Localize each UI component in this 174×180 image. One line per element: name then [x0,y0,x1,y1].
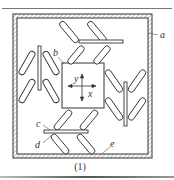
label-a: a [160,29,165,40]
flexure-diagram: y x [0,0,174,180]
figure-caption: (1) [74,161,86,173]
x-axis-label: x [87,88,93,99]
bottom-rule [0,176,174,178]
label-e: e [110,138,115,149]
y-axis-label: y [73,73,79,84]
label-c: c [36,118,41,129]
label-b: b [53,47,58,58]
